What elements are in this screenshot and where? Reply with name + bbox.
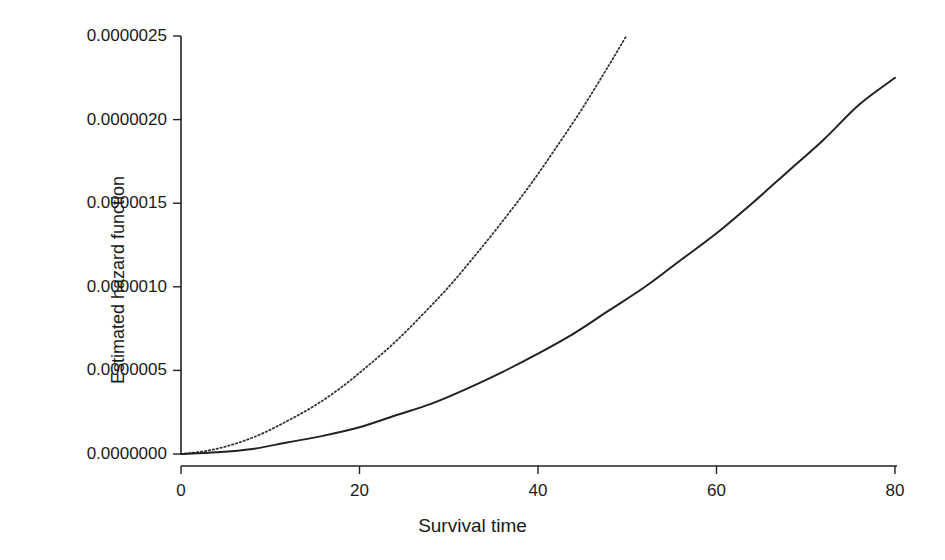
axes-group	[181, 36, 897, 466]
y-tick-label: 0.0000025	[87, 26, 167, 46]
x-axis-title: Survival time	[0, 515, 945, 537]
y-tick-marks	[173, 36, 181, 454]
dotted-curve	[181, 36, 626, 454]
y-tick-label: 0.0000000	[87, 444, 167, 464]
solid-curve	[181, 78, 895, 454]
x-tick-label: 0	[176, 481, 185, 501]
x-tick-label: 20	[350, 481, 369, 501]
y-axis-title: Estimated hazard function	[108, 176, 129, 384]
chart-figure: 0.00000000.00000050.00000100.00000150.00…	[0, 0, 945, 560]
x-tick-label: 40	[529, 481, 548, 501]
y-tick-label: 0.0000020	[87, 110, 167, 130]
x-tick-label: 80	[886, 481, 905, 501]
x-tick-marks	[181, 466, 895, 474]
x-tick-label: 60	[707, 481, 726, 501]
